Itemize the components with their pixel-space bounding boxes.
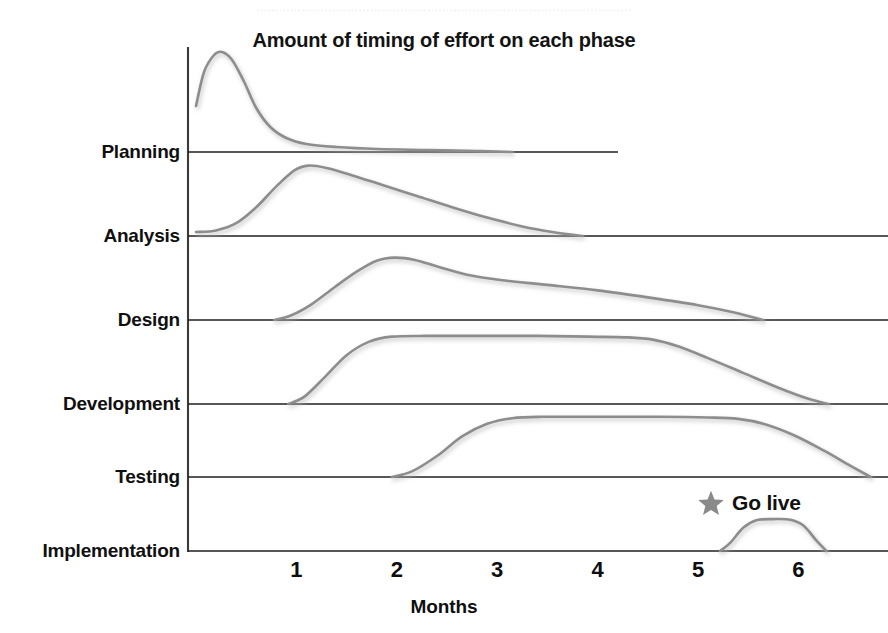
y-axis-label-testing: Testing: [0, 466, 180, 488]
go-live-label: Go live: [732, 491, 801, 515]
y-axis-label-development: Development: [0, 393, 180, 415]
curve-implementation: [720, 519, 826, 551]
x-axis-tick-6: 6: [768, 557, 828, 583]
x-axis-tick-5: 5: [668, 557, 728, 583]
x-axis-tick-2: 2: [367, 557, 427, 583]
curve-design: [274, 258, 763, 320]
star-icon: [696, 489, 726, 518]
x-axis-tick-3: 3: [467, 557, 527, 583]
y-axis-label-implementation: Implementation: [0, 540, 180, 562]
chart-curves: [196, 52, 871, 551]
chart-axes: [188, 47, 888, 552]
y-axis-label-design: Design: [0, 309, 180, 331]
x-axis-title: Months: [0, 596, 888, 618]
go-live-annotation: Go live: [696, 489, 801, 517]
curve-analysis: [196, 166, 583, 236]
chart-page: ……………………………………………………………………………………… Amount…: [0, 0, 888, 633]
x-axis-tick-4: 4: [568, 557, 628, 583]
y-axis-label-planning: Planning: [0, 141, 180, 163]
y-axis-label-analysis: Analysis: [0, 225, 180, 247]
curve-planning: [196, 52, 512, 152]
curve-development: [288, 336, 828, 404]
curve-testing: [392, 417, 871, 477]
x-axis-tick-1: 1: [266, 557, 326, 583]
